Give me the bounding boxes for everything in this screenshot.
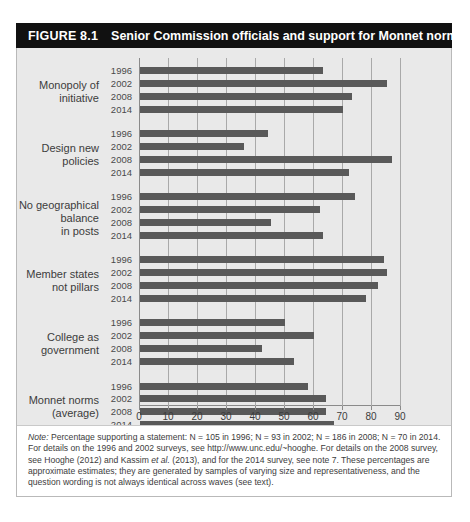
bar bbox=[140, 295, 366, 302]
year-label: 2002 bbox=[102, 141, 132, 152]
year-label: 1996 bbox=[102, 65, 132, 76]
category-label-line: in posts bbox=[17, 225, 99, 238]
category-label-line: Monopoly of bbox=[17, 79, 99, 92]
x-tick-label-10: 10 bbox=[153, 411, 183, 422]
x-tick-90 bbox=[400, 406, 401, 410]
bar bbox=[140, 106, 343, 113]
bar bbox=[140, 193, 355, 200]
x-tick-30 bbox=[226, 406, 227, 410]
bar bbox=[140, 256, 384, 263]
category-label-line: College as bbox=[17, 331, 99, 344]
x-tick-label-30: 30 bbox=[211, 411, 241, 422]
year-label: 2008 bbox=[102, 343, 132, 354]
figure-title: Senior Commission officials and support … bbox=[111, 29, 452, 43]
x-tick-label-20: 20 bbox=[182, 411, 212, 422]
year-label: 2002 bbox=[102, 204, 132, 215]
year-label: 2008 bbox=[102, 91, 132, 102]
category-label-line: policies bbox=[17, 155, 99, 168]
bar bbox=[140, 232, 323, 239]
bar bbox=[140, 332, 314, 339]
bar bbox=[140, 269, 387, 276]
year-label: 2014 bbox=[102, 356, 132, 367]
category-label-line: initiative bbox=[17, 92, 99, 105]
bar bbox=[140, 383, 308, 390]
bar bbox=[140, 206, 320, 213]
year-label: 1996 bbox=[102, 381, 132, 392]
year-label: 2014 bbox=[102, 104, 132, 115]
plot-area bbox=[139, 58, 400, 406]
x-axis-line bbox=[139, 405, 400, 406]
category-label-line: (average) bbox=[17, 407, 99, 420]
category-label: Monnet norms(average) bbox=[17, 394, 99, 420]
category-label-line: government bbox=[17, 344, 99, 357]
category-label: College asgovernment bbox=[17, 331, 99, 357]
bar bbox=[140, 143, 244, 150]
bar bbox=[140, 156, 392, 163]
category-label-line: Monnet norms bbox=[17, 394, 99, 407]
year-label: 1996 bbox=[102, 191, 132, 202]
year-label: 2002 bbox=[102, 78, 132, 89]
category-label: Member statesnot pillars bbox=[17, 268, 99, 294]
category-label-line: not pillars bbox=[17, 281, 99, 294]
chart-panel: 01020304050607080901996200220082014Monop… bbox=[17, 48, 451, 425]
year-label: 1996 bbox=[102, 317, 132, 328]
year-label: 2008 bbox=[102, 280, 132, 291]
figure-number: FIGURE 8.1 bbox=[28, 29, 98, 43]
bar bbox=[140, 67, 323, 74]
year-label: 2014 bbox=[102, 230, 132, 241]
note-label: Note: bbox=[28, 432, 49, 442]
bar bbox=[140, 169, 349, 176]
bar bbox=[140, 130, 268, 137]
year-label: 2014 bbox=[102, 167, 132, 178]
x-tick-label-80: 80 bbox=[356, 411, 386, 422]
year-label: 2008 bbox=[102, 406, 132, 417]
year-label: 2002 bbox=[102, 330, 132, 341]
figure-root: FIGURE 8.1 Senior Commission officials a… bbox=[0, 0, 470, 522]
year-label: 2008 bbox=[102, 217, 132, 228]
year-label: 2014 bbox=[102, 293, 132, 304]
bar bbox=[140, 80, 387, 87]
note-separator bbox=[17, 425, 451, 426]
x-tick-40 bbox=[255, 406, 256, 410]
x-tick-70 bbox=[342, 406, 343, 410]
x-tick-80 bbox=[371, 406, 372, 410]
category-label: No geographicalbalancein posts bbox=[17, 199, 99, 238]
x-tick-label-90: 90 bbox=[385, 411, 415, 422]
year-label: 2002 bbox=[102, 267, 132, 278]
x-tick-label-40: 40 bbox=[240, 411, 270, 422]
x-tick-label-50: 50 bbox=[269, 411, 299, 422]
bar bbox=[140, 358, 294, 365]
figure-note: Note: Percentage supporting a statement:… bbox=[28, 432, 442, 488]
bar bbox=[140, 219, 271, 226]
gridline-90 bbox=[400, 58, 401, 406]
category-label-line: balance bbox=[17, 212, 99, 225]
bar bbox=[140, 282, 378, 289]
x-tick-50 bbox=[284, 406, 285, 410]
note-italic-citation: et al. bbox=[151, 455, 170, 465]
x-tick-60 bbox=[313, 406, 314, 410]
bar bbox=[140, 395, 326, 402]
gridline-80 bbox=[371, 58, 372, 406]
x-tick-10 bbox=[168, 406, 169, 410]
bar bbox=[140, 345, 262, 352]
category-label: Monopoly ofinitiative bbox=[17, 79, 99, 105]
bar bbox=[140, 319, 285, 326]
category-label-line: Design new bbox=[17, 142, 99, 155]
year-label: 1996 bbox=[102, 128, 132, 139]
x-tick-20 bbox=[197, 406, 198, 410]
category-label-line: No geographical bbox=[17, 199, 99, 212]
x-tick-label-70: 70 bbox=[327, 411, 357, 422]
bar bbox=[140, 93, 352, 100]
category-label-line: Member states bbox=[17, 268, 99, 281]
year-label: 2008 bbox=[102, 154, 132, 165]
x-tick-0 bbox=[139, 406, 140, 410]
figure-title-bar: FIGURE 8.1 Senior Commission officials a… bbox=[16, 23, 452, 48]
x-tick-label-60: 60 bbox=[298, 411, 328, 422]
year-label: 2002 bbox=[102, 393, 132, 404]
category-label: Design newpolicies bbox=[17, 142, 99, 168]
year-label: 1996 bbox=[102, 254, 132, 265]
